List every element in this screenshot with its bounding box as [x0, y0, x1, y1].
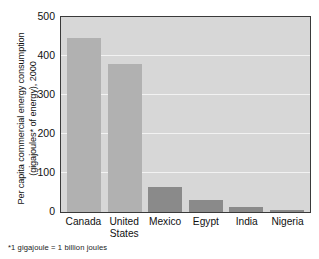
x-tick-line-1: Mexico: [149, 216, 181, 227]
x-axis-tick-label-egypt: Egypt: [187, 216, 225, 239]
x-tick-line-1: Canada: [66, 216, 102, 227]
x-axis-tick-label-nigeria: Nigeria: [269, 216, 307, 239]
bar-slot: [268, 17, 306, 212]
y-axis-tick-label: 500: [27, 10, 55, 22]
bar-slot: [227, 17, 265, 212]
x-tick-line-1: India: [236, 216, 258, 227]
x-axis-tick-labels: CanadaUnitedStatesMexicoEgyptIndiaNigeri…: [60, 216, 311, 239]
bar-nigeria[interactable]: [270, 210, 304, 212]
bar-slot: [146, 17, 184, 212]
x-tick-line-2: States: [105, 228, 143, 240]
bar-india[interactable]: [229, 207, 263, 212]
bar-united-states[interactable]: [108, 64, 142, 212]
bar-canada[interactable]: [67, 38, 101, 212]
x-tick-line-1: Egypt: [193, 216, 219, 227]
footnote: *1 gigajoule = 1 billion joules: [8, 243, 107, 252]
y-axis-tick-label: 0: [27, 205, 55, 217]
bar-slot: [65, 17, 103, 212]
bar-mexico[interactable]: [148, 187, 182, 212]
bar-series: [61, 17, 310, 212]
y-axis-title-line-1: Per capita commercial energy consumption: [16, 19, 28, 219]
y-axis-tick-label: 400: [27, 49, 55, 61]
bar-slot: [106, 17, 144, 212]
x-axis-tick-label-united-states: UnitedStates: [105, 216, 143, 239]
plot-area: [60, 16, 311, 213]
x-axis-tick-label-mexico: Mexico: [146, 216, 184, 239]
y-axis-tick-label: 200: [27, 127, 55, 139]
x-axis-tick-label-canada: Canada: [64, 216, 102, 239]
bar-egypt[interactable]: [189, 200, 223, 212]
x-tick-line-1: Nigeria: [271, 216, 303, 227]
y-axis-tick-label: 100: [27, 166, 55, 178]
y-axis-tick-label: 300: [27, 88, 55, 100]
x-axis-tick-label-india: India: [228, 216, 266, 239]
x-tick-line-1: United: [110, 216, 139, 227]
bar-slot: [187, 17, 225, 212]
bar-chart-figure: Per capita commercial energy consumption…: [0, 0, 319, 259]
